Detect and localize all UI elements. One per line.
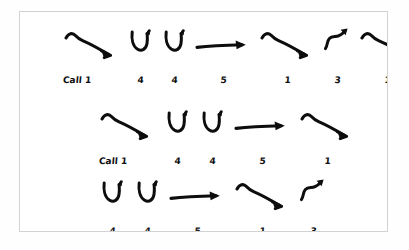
notation-cell: 1 [358,24,388,86]
notation-label: 4 [198,156,229,166]
level-arrow-icon [234,117,292,139]
rising-arrow-icon [323,28,353,58]
notation-label: 5 [194,75,255,85]
notation-cell: 1 [298,105,358,167]
notation-cell: Call 1 [62,24,122,86]
level-arrow-icon [195,36,253,58]
notation-label: 5 [168,226,229,232]
notation-cell: 4 [198,105,228,167]
notation-label: 1 [358,75,388,85]
scoop-arrow-icon [136,180,160,210]
notation-label: 3 [298,226,331,232]
notation-cell: 4 [133,175,163,232]
notation-label: 4 [98,226,129,232]
falling-arrow-icon [234,179,292,213]
notation-cell: 5 [194,24,254,86]
falling-arrow-icon [359,28,388,62]
notation-cell: 4 [98,175,128,232]
notation-row: 44513 [98,175,335,232]
notation-cell: Call 1 [98,105,158,167]
scoop-arrow-icon [101,180,125,210]
scoop-arrow-icon [129,29,153,59]
scoop-arrow-icon [166,110,190,140]
notation-label: 4 [163,156,194,166]
notation-label: 4 [126,75,157,85]
notation-cell: 3 [298,175,330,232]
notation-cell: 5 [233,105,293,167]
falling-arrow-icon [299,109,357,143]
page-canvas: Call 14451314 Call 14451 44513 [0,0,409,250]
notation-cell: 3 [322,24,354,86]
notation-label: 4 [133,226,164,232]
notation-cell: 4 [126,24,156,86]
notation-row: Call 14451314 [62,24,388,86]
notation-label: Call 1 [62,75,124,85]
notation-cell: 5 [168,175,228,232]
notation-label: 1 [298,156,359,166]
scoop-arrow-icon [163,29,187,59]
notation-cell: 4 [160,24,190,86]
rising-arrow-icon [299,179,329,209]
level-arrow-icon [169,187,227,209]
notation-cell: 1 [233,175,293,232]
notation-label: 1 [233,226,294,232]
notation-cell: 1 [258,24,318,86]
notation-label: 4 [160,75,191,85]
scoop-arrow-icon [201,110,225,140]
notation-label: 5 [233,156,294,166]
falling-arrow-icon [99,109,157,143]
falling-arrow-icon [259,28,317,62]
notation-label: Call 1 [98,156,160,166]
notation-row: Call 14451 [98,105,363,167]
falling-arrow-icon [63,28,121,62]
notation-label: 1 [258,75,319,85]
notation-sheet: Call 14451314 Call 14451 44513 [19,11,388,232]
notation-cell: 4 [163,105,193,167]
notation-label: 3 [322,75,355,85]
